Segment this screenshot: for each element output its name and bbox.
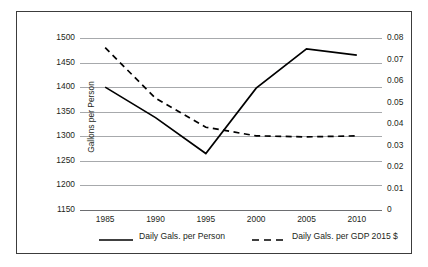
y-tick-label-right: 0.06 [387, 76, 428, 85]
y-tick-label-right: 0 [387, 205, 428, 214]
legend-label-0: Daily Gals. per Person [139, 231, 225, 241]
plot-area: 11501200125013001350140014501500 00.010.… [80, 38, 382, 210]
y-tick-label-right: 0.02 [387, 162, 428, 171]
series-line-0 [105, 49, 357, 154]
series-lines [80, 38, 382, 210]
y-tick-label-right: 0.01 [387, 184, 428, 193]
x-tick-label: 1990 [134, 214, 178, 224]
y-axis-left-title: Gallons per Person [86, 62, 96, 172]
x-tick-label: 2010 [335, 214, 379, 224]
x-tick-label: 1985 [83, 214, 127, 224]
x-tick-label: 2000 [234, 214, 278, 224]
y-tick-label-left: 1300 [29, 131, 75, 140]
y-tick-label-right: 0.08 [387, 33, 428, 42]
y-tick-label-right: 0.07 [387, 55, 428, 64]
chart-legend: Daily Gals. per Person Daily Gals. per G… [80, 231, 382, 249]
x-tick-label: 2005 [285, 214, 329, 224]
figure-border: 11501200125013001350140014501500 00.010.… [16, 11, 412, 254]
y-tick-label-right: 0.04 [387, 119, 428, 128]
y-tick-label-right: 0.03 [387, 141, 428, 150]
series-line-1 [105, 48, 357, 137]
legend-item-daily-gals-per-person: Daily Gals. per Person [99, 231, 225, 241]
y-tick-label-left: 1400 [29, 82, 75, 91]
legend-swatch-dashed-icon [252, 231, 286, 241]
y-tick-label-left: 1350 [29, 107, 75, 116]
y-tick-label-left: 1500 [29, 33, 75, 42]
legend-swatch-solid-icon [99, 231, 133, 241]
chart-figure: 11501200125013001350140014501500 00.010.… [0, 0, 428, 267]
y-tick-label-left: 1200 [29, 180, 75, 189]
legend-label-1: Daily Gals. per GDP 2015 $ [292, 231, 398, 241]
y-tick-label-left: 1450 [29, 58, 75, 67]
gridline [80, 210, 382, 211]
x-tick-label: 1995 [184, 214, 228, 224]
y-tick-label-right: 0.05 [387, 98, 428, 107]
legend-item-daily-gals-per-gdp: Daily Gals. per GDP 2015 $ [252, 231, 398, 241]
y-tick-label-left: 1250 [29, 156, 75, 165]
y-tick-label-left: 1150 [29, 205, 75, 214]
